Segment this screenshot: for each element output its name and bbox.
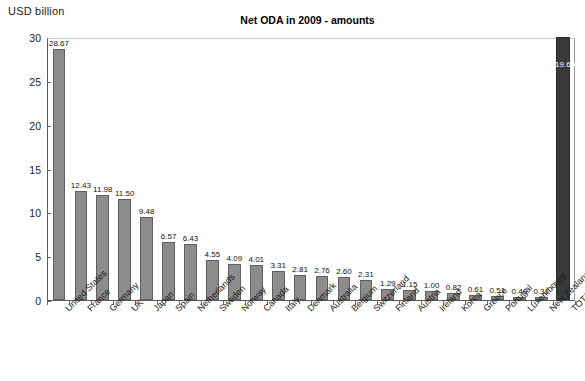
y-axis: 051015202530 [0, 38, 47, 301]
chart-title: Net ODA in 2009 - amounts [0, 14, 585, 26]
bar-value-label: 2.31 [358, 271, 374, 279]
x-axis-labels: United StatesFranceGermanyUKJapanSpainNe… [47, 305, 575, 381]
x-axis-category-label: Belgium [350, 307, 356, 313]
bar-value-label: 119.60 [551, 61, 575, 69]
bar-value-label: 4.01 [248, 256, 264, 264]
x-axis-category-label: TOTAL DAC [570, 307, 576, 313]
x-axis-category-label: Ireland [438, 307, 444, 313]
bar-slot: 2.76 [311, 39, 333, 300]
y-axis-tick-label: 15 [29, 164, 41, 176]
bar-slot: 11.50 [114, 39, 136, 300]
bar-value-label: 6.57 [161, 233, 177, 241]
bar-slot: 2.31 [355, 39, 377, 300]
bar-value-label: 9.48 [139, 208, 155, 216]
bar-value-label: 11.50 [115, 190, 134, 198]
x-axis-category-label: Korea [460, 307, 466, 313]
bar-slot: 9.48 [136, 39, 158, 300]
bar-total-dac [556, 37, 570, 300]
bar-value-label: 4.09 [227, 255, 243, 263]
bar-value-label: 6.43 [183, 235, 199, 243]
bar-slot: 2.81 [289, 39, 311, 300]
bar-slot: 1.29 [377, 39, 399, 300]
bar-slot: 4.09 [223, 39, 245, 300]
y-axis-tick-label: 0 [35, 295, 41, 307]
x-axis-category-label: Sweden [218, 307, 224, 313]
x-axis-category-label: Greece [482, 307, 488, 313]
x-axis-category-label: Canada [262, 307, 268, 313]
x-axis-category-label: UK [130, 307, 136, 313]
x-axis-category-label: Finland [394, 307, 400, 313]
bar-value-label: 11.98 [93, 186, 112, 194]
bars-layer: 28.6712.4311.9811.509.486.576.434.554.09… [48, 39, 574, 300]
bar-slot: 6.57 [158, 39, 180, 300]
y-axis-tick-label: 25 [29, 76, 41, 88]
bar-value-label: 3.31 [270, 262, 286, 270]
bar-slot: 12.43 [70, 39, 92, 300]
x-axis-category-label: Switzerland [372, 307, 378, 313]
bar-slot: 11.98 [92, 39, 114, 300]
bar-slot: 2.60 [333, 39, 355, 300]
x-axis-category-label: France [86, 307, 92, 313]
x-axis-category-label: Germany [108, 307, 114, 313]
bar-slot: 4.01 [245, 39, 267, 300]
bar-slot: 28.67 [48, 39, 70, 300]
bar-slot: 4.55 [201, 39, 223, 300]
bar-value-label: 2.60 [336, 268, 352, 276]
bar-value-label: 2.76 [314, 267, 330, 275]
y-axis-tick-label: 20 [29, 120, 41, 132]
bar-slot: 3.31 [267, 39, 289, 300]
bar [53, 49, 66, 300]
bar-slot: 0.31 [530, 39, 552, 300]
plot-area: 28.6712.4311.9811.509.486.576.434.554.09… [47, 38, 575, 301]
x-axis-category-label: Spain [174, 307, 180, 313]
bar-value-label: 4.55 [205, 251, 221, 259]
bar [140, 217, 153, 300]
bar-slot: 1.15 [399, 39, 421, 300]
y-axis-tick-label: 10 [29, 207, 41, 219]
x-axis-category-label: Luxembourg [526, 307, 532, 313]
bar-slot: 6.43 [180, 39, 202, 300]
x-axis-category-label: Italy [284, 307, 290, 313]
bar-value-label: 28.67 [49, 40, 69, 48]
bar-slot: 0.61 [465, 39, 487, 300]
bar-slot: 0.51 [486, 39, 508, 300]
bar-value-label: 12.43 [71, 182, 91, 190]
bar-slot: 1.00 [421, 39, 443, 300]
x-axis-category-label: Netherlands [196, 307, 202, 313]
x-axis-category-label: United States [64, 307, 70, 313]
x-axis-category-label: Australia [328, 307, 334, 313]
x-axis-category-label: Denmark [306, 307, 312, 313]
x-axis-category-label: Japan [152, 307, 158, 313]
y-axis-tick-label: 5 [35, 251, 41, 263]
y-axis-tick-label: 30 [29, 32, 41, 44]
bar-slot: 0.40 [508, 39, 530, 300]
x-axis-category-label: Norway [240, 307, 246, 313]
bar-slot: 0.82 [443, 39, 465, 300]
bar-slot: 119.60 [552, 39, 574, 300]
x-axis-category-label: New Zealand [548, 307, 554, 313]
x-axis-category-label: Portugal [504, 307, 510, 313]
x-axis-category-label: Austria [416, 307, 422, 313]
bar-value-label: 2.81 [292, 266, 308, 274]
